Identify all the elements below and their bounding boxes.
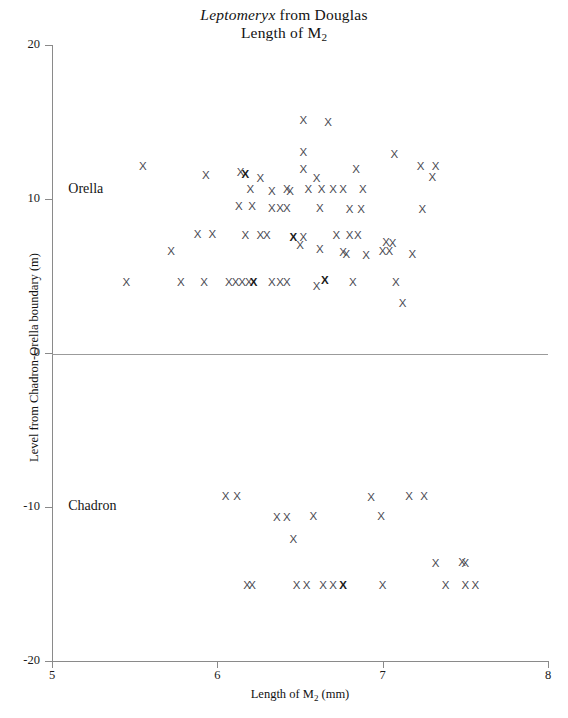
- data-point-orella: X: [175, 276, 186, 289]
- data-points-layer: XXXXXXXXXXXXXXXXXXXXXXXXXXXXXXXXXXXXXXXX…: [0, 0, 568, 718]
- y-tick-mark: [45, 353, 52, 354]
- data-point-chadron: X: [460, 579, 471, 592]
- data-point-orella: X: [255, 172, 266, 185]
- data-point-orella: X: [314, 202, 325, 215]
- data-point-orella: X: [352, 229, 363, 242]
- x-tick-mark: [217, 661, 218, 668]
- figure-title: Leptomeryx from Douglas Length of M2: [0, 6, 568, 45]
- x-tick-mark: [52, 661, 53, 668]
- data-point-chadron: X: [377, 579, 388, 592]
- data-point-chadron: X: [291, 579, 302, 592]
- y-tick-label: 10: [0, 191, 40, 206]
- data-point-orella: X: [281, 202, 292, 215]
- scatter-plot-figure: Leptomeryx from Douglas Length of M2 201…: [0, 0, 568, 718]
- data-point-orella: X: [200, 169, 211, 182]
- data-point-orella: X: [243, 276, 254, 289]
- data-point-orella: X: [298, 231, 309, 244]
- x-tick-mark: [383, 661, 384, 668]
- data-point-chadron: X: [366, 491, 377, 504]
- data-point-orella: X: [166, 245, 177, 258]
- data-point-orella: X: [361, 249, 372, 262]
- data-point-orella: X: [237, 276, 248, 289]
- data-point-orella: X: [298, 114, 309, 127]
- data-point-chadron: X: [460, 557, 471, 570]
- data-point-orella: X: [407, 248, 418, 261]
- data-point-chadron: X: [301, 579, 312, 592]
- data-point-orella: X: [351, 163, 362, 176]
- x-axis-title-prefix: Length of M: [251, 687, 314, 701]
- data-point-orella: X: [337, 246, 348, 259]
- annotation-orella: Orella: [68, 181, 103, 197]
- data-point-chadron: X: [242, 579, 253, 592]
- title-line-2-subscript: 2: [321, 31, 327, 43]
- data-point-orella: X: [285, 185, 296, 198]
- title-line-1-rest: from Douglas: [276, 6, 368, 23]
- x-axis-title-suffix: (mm): [318, 687, 349, 701]
- data-point-orella: X: [337, 183, 348, 196]
- data-point-chadron: X: [470, 579, 481, 592]
- y-tick-mark: [45, 661, 52, 662]
- title-line-2-prefix: Length of M: [241, 24, 322, 41]
- zero-reference-line: [52, 354, 548, 355]
- data-point-orella: X: [288, 231, 299, 244]
- data-point-orella: X: [240, 168, 251, 181]
- data-point-orella: X: [357, 183, 368, 196]
- data-point-orella: X: [331, 229, 342, 242]
- data-point-orella: X: [344, 229, 355, 242]
- data-point-orella: X: [247, 200, 258, 213]
- genus-name: Leptomeryx: [200, 6, 275, 23]
- data-point-orella: X: [323, 116, 334, 129]
- data-point-orella: X: [298, 163, 309, 176]
- x-tick-label: 8: [528, 668, 568, 683]
- data-point-orella: X: [223, 276, 234, 289]
- data-point-orella: X: [319, 274, 330, 287]
- title-line-2: Length of M2: [0, 24, 568, 44]
- x-tick-label: 7: [363, 668, 403, 683]
- data-point-orella: X: [347, 276, 358, 289]
- data-point-orella: X: [314, 243, 325, 256]
- data-point-orella: X: [311, 172, 322, 185]
- data-point-chadron: X: [457, 556, 468, 569]
- data-point-orella: X: [298, 146, 309, 159]
- data-point-chadron: X: [308, 510, 319, 523]
- data-point-orella: X: [261, 229, 272, 242]
- data-point-chadron: X: [232, 490, 243, 503]
- data-point-chadron: X: [271, 511, 282, 524]
- x-axis-line: [52, 661, 548, 662]
- y-tick-label: 20: [0, 37, 40, 52]
- data-point-orella: X: [245, 183, 256, 196]
- data-point-orella: X: [230, 276, 241, 289]
- data-point-chadron: X: [430, 557, 441, 570]
- data-point-chadron: X: [328, 579, 339, 592]
- x-axis-title: Length of M2 (mm): [52, 687, 548, 703]
- data-point-orella: X: [266, 276, 277, 289]
- data-point-chadron: X: [440, 579, 451, 592]
- data-point-orella: X: [303, 183, 314, 196]
- data-point-orella: X: [281, 183, 292, 196]
- data-point-orella: X: [427, 171, 438, 184]
- data-point-orella: X: [255, 229, 266, 242]
- data-point-orella: X: [397, 297, 408, 310]
- data-point-orella: X: [266, 185, 277, 198]
- data-point-orella: X: [137, 160, 148, 173]
- data-point-orella: X: [356, 203, 367, 216]
- data-point-orella: X: [328, 183, 339, 196]
- data-point-chadron: X: [404, 490, 415, 503]
- data-point-orella: X: [233, 200, 244, 213]
- y-tick-mark: [45, 507, 52, 508]
- data-point-orella: X: [235, 166, 246, 179]
- data-point-orella: X: [248, 276, 259, 289]
- data-point-orella: X: [240, 229, 251, 242]
- data-point-orella: X: [311, 280, 322, 293]
- data-point-orella: X: [417, 203, 428, 216]
- data-point-orella: X: [380, 236, 391, 249]
- y-tick-label: -10: [0, 499, 40, 514]
- data-point-chadron: X: [419, 490, 430, 503]
- data-point-chadron: X: [376, 510, 387, 523]
- data-point-orella: X: [384, 245, 395, 258]
- data-point-orella: X: [295, 239, 306, 252]
- x-tick-label: 5: [32, 668, 72, 683]
- y-tick-mark: [45, 199, 52, 200]
- x-tick-mark: [548, 661, 549, 668]
- data-point-orella: X: [316, 183, 327, 196]
